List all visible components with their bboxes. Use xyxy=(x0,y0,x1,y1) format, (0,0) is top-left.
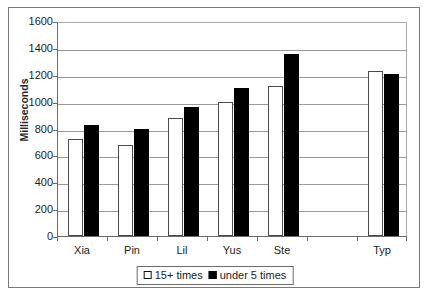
y-axis-tick-label: 800 xyxy=(7,124,53,135)
x-axis-tick-label: Typ xyxy=(357,244,407,257)
legend-label: 15+ times xyxy=(155,269,203,281)
y-axis-tick-label: 0 xyxy=(7,231,53,242)
x-axis-tick-mark xyxy=(57,237,58,241)
x-axis-tick-mark xyxy=(207,237,208,241)
plot-area xyxy=(57,22,407,237)
bar xyxy=(368,71,383,236)
bar xyxy=(384,74,399,236)
x-axis-tick-mark xyxy=(257,237,258,241)
bar xyxy=(268,86,283,236)
bar xyxy=(168,118,183,236)
y-axis-tick-label: 1000 xyxy=(7,97,53,108)
bar-group xyxy=(108,23,158,236)
legend-item: under 5 times xyxy=(209,269,287,281)
bar xyxy=(234,88,249,236)
bar-group xyxy=(208,23,258,236)
bar xyxy=(118,145,133,236)
y-axis-tick-label: 1200 xyxy=(7,70,53,81)
x-axis-tick-label: Pin xyxy=(107,244,157,257)
x-axis-tick-label: Ste xyxy=(257,244,307,257)
white-square-icon xyxy=(144,271,152,279)
bar-group xyxy=(258,23,308,236)
x-axis-tick-label: Xia xyxy=(57,244,107,257)
x-axis-tick-mark xyxy=(406,237,407,241)
bar-group xyxy=(308,23,358,236)
y-axis-tick-label: 1600 xyxy=(7,16,53,27)
bar-group xyxy=(58,23,108,236)
x-axis-tick-mark xyxy=(157,237,158,241)
x-axis-tick-label: Lil xyxy=(157,244,207,257)
bar xyxy=(84,125,99,236)
y-axis-tick-label: 600 xyxy=(7,150,53,161)
x-axis-tick-label: Yus xyxy=(207,244,257,257)
x-axis-tick-marks xyxy=(57,237,407,242)
y-axis-tick-label: 1400 xyxy=(7,43,53,54)
bar-group xyxy=(158,23,208,236)
legend-label: under 5 times xyxy=(220,269,287,281)
black-square-icon xyxy=(209,271,217,279)
legend-item: 15+ times xyxy=(144,269,203,281)
x-axis-tick-mark xyxy=(107,237,108,241)
chart-figure: Milliseconds 160014001200100080060040020… xyxy=(0,0,430,300)
bar xyxy=(184,107,199,236)
x-axis-tick-mark xyxy=(307,237,308,241)
bar xyxy=(284,54,299,236)
chart-legend: 15+ timesunder 5 times xyxy=(137,266,294,285)
bar xyxy=(134,129,149,237)
y-axis-tick-label: 400 xyxy=(7,177,53,188)
y-axis-tick-label: 200 xyxy=(7,204,53,215)
x-axis-tick-labels: XiaPinLilYusSteTyp xyxy=(57,244,407,260)
x-axis-tick-mark xyxy=(357,237,358,241)
bar-group xyxy=(358,23,408,236)
bar xyxy=(68,139,83,236)
bar xyxy=(218,102,233,236)
y-axis-tick-labels: 16001400120010008006004002000 xyxy=(5,22,53,237)
